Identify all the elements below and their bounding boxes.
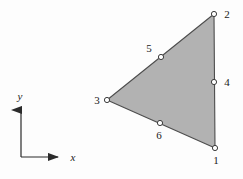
node-label-2: 2 [224, 8, 230, 20]
x-axis-label: x [70, 151, 76, 163]
y-axis-label: y [17, 90, 23, 102]
node-marker-5[interactable] [158, 54, 163, 59]
figure-container: 1 2 3 4 5 6 y x [0, 0, 243, 179]
node-label-6: 6 [156, 129, 162, 141]
node-label-3: 3 [94, 94, 100, 106]
node-marker-2[interactable] [211, 11, 216, 16]
node-marker-6[interactable] [157, 120, 162, 125]
node-label-5: 5 [146, 42, 152, 54]
element-fill [107, 14, 215, 148]
triangular-element [107, 14, 215, 148]
node-label-4: 4 [224, 76, 230, 88]
finite-element-diagram: 1 2 3 4 5 6 y x [0, 0, 243, 179]
node-marker-3[interactable] [104, 97, 109, 102]
node-marker-4[interactable] [211, 79, 216, 84]
node-marker-1[interactable] [212, 145, 217, 150]
node-label-1: 1 [213, 154, 219, 166]
coordinate-axes: y x [17, 90, 76, 163]
